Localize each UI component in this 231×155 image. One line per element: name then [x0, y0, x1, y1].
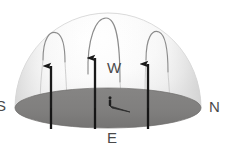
cardinal-label-south: S: [0, 98, 6, 113]
observer-head: [109, 96, 112, 99]
observer-body: [109, 100, 111, 106]
cardinal-label-west: W: [107, 60, 121, 75]
dome-diagram: S N W E: [0, 0, 231, 155]
cardinal-label-east: E: [107, 130, 117, 145]
cardinal-label-north: N: [209, 99, 220, 114]
ground-ellipse: [15, 88, 201, 128]
